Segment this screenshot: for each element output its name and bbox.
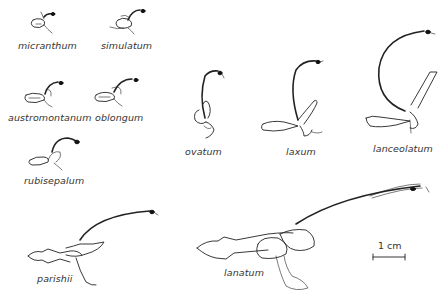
label-rubisepalum: rubisepalum [24, 175, 84, 186]
label-lanatum: lanatum [224, 267, 264, 278]
label-laxum: laxum [286, 146, 316, 157]
drawing-ovatum [195, 71, 225, 138]
label-parishii: parishii [37, 273, 72, 284]
label-lanceolatum: lanceolatum [373, 143, 433, 154]
drawing-austromontanum [25, 81, 63, 107]
drawing-oblongum [95, 78, 138, 106]
scale-bar-label: 1 cm [378, 240, 402, 251]
drawing-rubisepalum [29, 138, 79, 170]
label-micranthum: micranthum [18, 40, 77, 51]
drawing-simulatum [110, 9, 145, 34]
botanical-figure: micranthum simulatum austromontanum oblo… [0, 0, 444, 293]
drawing-micranthum [31, 12, 55, 33]
drawing-lanceolatum [366, 30, 437, 133]
scale-bar [373, 254, 405, 260]
label-oblongum: oblongum [95, 112, 143, 123]
label-austromontanum: austromontanum [8, 112, 92, 123]
label-ovatum: ovatum [185, 146, 222, 157]
drawing-laxum [262, 60, 324, 136]
label-simulatum: simulatum [101, 40, 152, 51]
